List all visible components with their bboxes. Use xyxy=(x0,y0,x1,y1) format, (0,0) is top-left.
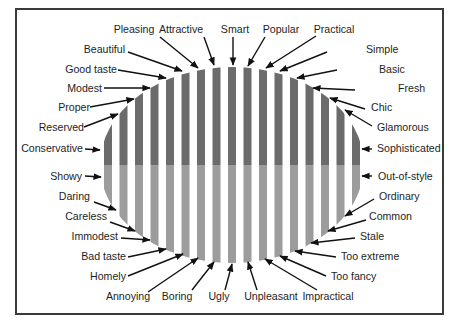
arrow-icon xyxy=(295,251,336,257)
stripe-bottom xyxy=(197,165,205,263)
label-attractive: Attractive xyxy=(159,23,203,35)
label-proper: Proper xyxy=(58,101,90,113)
stripe-top xyxy=(197,67,205,165)
label-good-taste: Good taste xyxy=(65,63,117,75)
label-beautiful: Beautiful xyxy=(84,43,125,55)
label-homely: Homely xyxy=(90,270,127,282)
label-glamorous: Glamorous xyxy=(377,121,429,133)
arrow-icon xyxy=(85,149,100,150)
stripe-bottom xyxy=(213,165,221,263)
stripe-bottom xyxy=(182,165,190,263)
stripe-bottom xyxy=(166,165,174,263)
stripe-top xyxy=(104,67,112,165)
stripe-bottom xyxy=(151,165,159,263)
stripe-bottom xyxy=(135,165,143,263)
label-simple: Simple xyxy=(366,43,398,55)
arrow-icon xyxy=(225,264,232,290)
stripe-bottom xyxy=(259,165,267,263)
stripe-bottom xyxy=(321,165,329,263)
arrow-icon xyxy=(85,176,101,177)
stripe-top xyxy=(135,67,143,165)
stripe-bottom xyxy=(244,165,252,263)
label-popular: Popular xyxy=(263,23,300,35)
stripe-bottom xyxy=(120,165,128,263)
stripe-top xyxy=(213,67,221,165)
label-pleasing: Pleasing xyxy=(114,23,155,35)
label-bad-taste: Bad taste xyxy=(81,250,126,262)
label-common: Common xyxy=(369,210,412,222)
stripe-top xyxy=(166,67,174,165)
label-unpleasant: Unpleasant xyxy=(244,290,298,302)
stripe-bottom xyxy=(337,165,345,263)
label-smart: Smart xyxy=(221,23,249,35)
striped-ellipse xyxy=(104,67,360,263)
stripe-bottom xyxy=(306,165,314,263)
arrow-icon xyxy=(192,262,214,290)
label-stale: Stale xyxy=(360,230,384,242)
stripe-top xyxy=(259,67,267,165)
arrow-icon xyxy=(248,37,265,66)
arrow-icon xyxy=(121,238,150,240)
label-boring: Boring xyxy=(162,290,193,302)
semantic-differential-diagram: PleasingAttractiveSmartPopularPracticalB… xyxy=(0,0,455,322)
stripe-top xyxy=(306,67,314,165)
label-ordinary: Ordinary xyxy=(379,190,420,202)
label-annoying: Annoying xyxy=(106,290,150,302)
arrow-icon xyxy=(297,70,337,78)
stripe-top xyxy=(290,67,298,165)
label-showy: Showy xyxy=(50,170,82,182)
label-modest: Modest xyxy=(67,82,102,94)
label-ugly: Ugly xyxy=(208,290,230,302)
label-chic: Chic xyxy=(371,101,393,113)
arrow-icon xyxy=(280,256,326,276)
arrow-icon xyxy=(313,88,355,90)
stripe-top xyxy=(182,67,190,165)
label-impractical: Impractical xyxy=(302,290,353,302)
stripe-top xyxy=(151,67,159,165)
label-careless: Careless xyxy=(65,210,107,222)
arrow-icon xyxy=(265,259,317,290)
arrow-icon xyxy=(118,70,166,78)
arrow-icon xyxy=(311,238,355,243)
stripe-bottom xyxy=(228,165,236,263)
stripe-top xyxy=(120,67,128,165)
arrow-icon xyxy=(148,258,198,292)
label-practical: Practical xyxy=(314,23,355,35)
arrow-icon xyxy=(160,37,198,68)
stripe-bottom xyxy=(290,165,298,263)
stripe-top xyxy=(244,67,252,165)
arrow-icon xyxy=(248,262,257,290)
label-reserved: Reserved xyxy=(39,121,84,133)
stripe-bottom xyxy=(275,165,283,263)
stripe-bottom xyxy=(352,165,360,263)
arrow-icon xyxy=(94,202,116,210)
arrow-icon xyxy=(345,110,372,126)
label-too-fancy: Too fancy xyxy=(331,270,377,282)
arrow-icon xyxy=(266,36,316,68)
label-immodest: Immodest xyxy=(71,230,118,242)
label-sophisticated: Sophisticated xyxy=(377,142,441,154)
arrow-icon xyxy=(128,254,183,276)
label-daring: Daring xyxy=(59,190,90,202)
stripe-top xyxy=(275,67,283,165)
label-fresh: Fresh xyxy=(398,82,425,94)
stripe-top xyxy=(337,67,345,165)
arrow-icon xyxy=(330,98,365,109)
label-conservative: Conservative xyxy=(21,142,83,154)
stripe-top xyxy=(228,67,236,165)
arrow-icon xyxy=(204,37,214,65)
label-basic: Basic xyxy=(379,63,406,75)
arrow-icon xyxy=(84,114,118,127)
arrow-icon xyxy=(128,52,182,71)
label-out-of-style: Out-of-style xyxy=(378,170,433,182)
arrow-icon xyxy=(128,249,166,257)
label-too-extreme: Too extreme xyxy=(341,250,399,262)
stripe-top xyxy=(321,67,329,165)
